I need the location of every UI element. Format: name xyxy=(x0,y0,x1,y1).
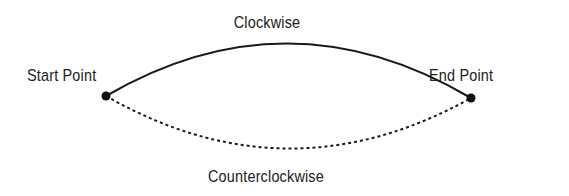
end-point-dot xyxy=(467,94,476,103)
end-point-label: End Point xyxy=(429,66,493,86)
start-point-dot xyxy=(102,92,111,101)
counterclockwise-arc xyxy=(106,96,471,149)
clockwise-label: Clockwise xyxy=(230,13,303,33)
start-point-label: Start Point xyxy=(27,66,96,86)
clockwise-arc xyxy=(106,43,471,98)
counterclockwise-label: Counterclockwise xyxy=(198,167,334,187)
